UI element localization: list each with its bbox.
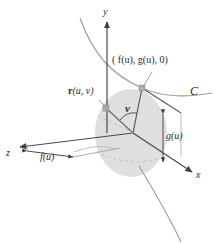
dimension-f-label: f(u) <box>40 152 54 162</box>
dimension-g-label: g(u) <box>166 131 183 141</box>
vector-r-args: (u, v) <box>72 85 93 96</box>
angle-v-label: v <box>125 103 130 114</box>
axis-label-z: z <box>6 148 10 158</box>
revolution-surface-figure: y x z ( f(u), g(u), 0) r(u, v) v C f(u) … <box>0 0 215 243</box>
r-tip-marker <box>103 105 109 111</box>
vector-label-leader <box>99 100 105 106</box>
point-label-leader <box>143 72 152 87</box>
curve-c-label: C <box>190 85 198 97</box>
figure-canvas <box>0 0 215 243</box>
vector-r-label: r(u, v) <box>68 86 94 96</box>
curve-c-lower <box>139 166 181 242</box>
axis-label-y: y <box>103 7 107 17</box>
point-coordinates-label: ( f(u), g(u), 0) <box>112 55 168 65</box>
axis-label-x: x <box>196 170 200 180</box>
